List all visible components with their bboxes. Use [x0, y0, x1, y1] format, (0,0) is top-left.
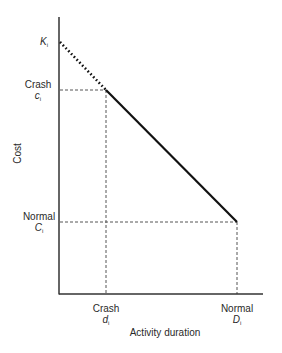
- normal-cost-word: Normal: [20, 211, 58, 222]
- diagram-canvas: [0, 0, 282, 353]
- x-axis-label-text: Activity duration: [130, 327, 201, 338]
- cost-line: [106, 90, 237, 222]
- k-label: Ki: [30, 36, 48, 51]
- crash-cost-label: Crash ci: [20, 79, 56, 105]
- normal-duration-symbol: D: [233, 314, 240, 325]
- k-symbol: K: [40, 36, 47, 47]
- normal-duration-sub: i: [240, 320, 241, 326]
- crash-cost-word: Crash: [20, 79, 56, 90]
- crash-duration-label: Crash di: [86, 303, 126, 329]
- crash-duration-word: Crash: [86, 303, 126, 314]
- y-axis-label-text: Cost: [12, 143, 23, 164]
- crash-duration-sub: i: [108, 320, 109, 326]
- extrapolation-line: [60, 42, 106, 90]
- normal-cost-symbol: C: [35, 222, 42, 233]
- x-axis-label: Activity duration: [115, 327, 215, 338]
- normal-duration-label: Normal Di: [216, 303, 258, 329]
- normal-cost-label: Normal Ci: [20, 211, 58, 237]
- y-axis-label: Cost: [12, 139, 23, 169]
- crash-cost-sub: i: [40, 96, 41, 102]
- normal-cost-sub: i: [42, 228, 43, 234]
- k-sub: i: [47, 42, 48, 48]
- normal-duration-word: Normal: [216, 303, 258, 314]
